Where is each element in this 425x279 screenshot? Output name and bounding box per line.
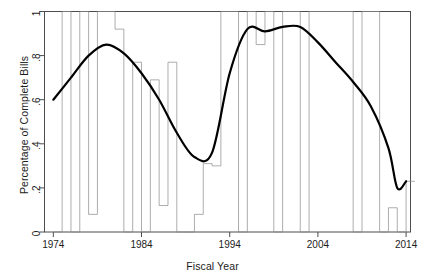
x-tick-label: 2004 <box>307 239 329 250</box>
y-tick-label-text: .8 <box>30 53 41 61</box>
y-tick-label: .6 <box>22 91 40 109</box>
plot-canvas <box>0 0 425 279</box>
y-tick-label-text: .6 <box>30 97 41 105</box>
x-tick-label: 2014 <box>395 239 417 250</box>
x-tick-label: 1994 <box>219 239 241 250</box>
x-tick-label: 1984 <box>130 239 152 250</box>
plot-frame <box>45 12 411 233</box>
chart-figure: Percentage of Complete Bills Fiscal Year… <box>0 0 425 279</box>
y-tick-label-text: 1 <box>32 10 43 16</box>
x-axis-title: Fiscal Year <box>0 260 425 272</box>
y-tick-label: .2 <box>22 179 40 197</box>
y-tick-label-text: .2 <box>30 185 41 193</box>
y-tick-label: .4 <box>22 135 40 153</box>
x-tick-label: 1974 <box>42 239 64 250</box>
y-tick-label: 0 <box>22 223 40 241</box>
y-tick-label: .8 <box>22 47 40 65</box>
y-tick-label-text: 0 <box>32 231 43 237</box>
y-tick-label-text: .4 <box>30 141 41 149</box>
x-axis-ticks <box>53 232 406 237</box>
y-tick-label: 1 <box>22 3 40 21</box>
y-axis-ticks <box>40 12 45 233</box>
